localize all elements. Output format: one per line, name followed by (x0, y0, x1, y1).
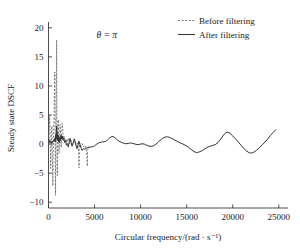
x-tick-label: 20000 (221, 212, 244, 222)
y-axis-tick-labels: −10−505101520 (29, 23, 44, 207)
y-tick-label: 10 (35, 81, 45, 91)
x-axis-title: Circular frequency/(rad · s⁻¹) (115, 232, 221, 242)
x-axis-ticks (49, 205, 279, 209)
y-tick-label: −5 (34, 168, 44, 178)
x-axis-tick-labels: 0500010000150002000025000 (46, 212, 290, 222)
x-tick-label: 25000 (268, 212, 291, 222)
y-axis-ticks (49, 28, 53, 202)
series-before-filtering (49, 40, 90, 195)
series-after-filtering (49, 126, 276, 153)
legend-label-before-filtering: Before filtering (199, 16, 255, 26)
y-tick-label: 20 (35, 23, 45, 33)
x-tick-label: 10000 (129, 212, 152, 222)
figure-container: −10−505101520 0500010000150002000025000 … (0, 0, 300, 251)
chart-canvas: −10−505101520 0500010000150002000025000 … (0, 0, 300, 251)
x-tick-label: 0 (46, 212, 51, 222)
x-tick-label: 15000 (175, 212, 198, 222)
y-tick-label: 0 (39, 139, 44, 149)
x-tick-label: 5000 (86, 212, 105, 222)
y-tick-label: 5 (39, 110, 44, 120)
y-tick-label: 15 (35, 52, 45, 62)
y-axis-title: Steady state DSCF (6, 84, 16, 152)
y-tick-label: −10 (29, 197, 44, 207)
legend-label-after-filtering: After filtering (199, 30, 250, 40)
data-series-group (49, 40, 276, 195)
axis-spines (49, 22, 289, 208)
legend: Before filtering After filtering (178, 16, 255, 40)
annotation-theta-pi: θ = π (96, 30, 117, 40)
